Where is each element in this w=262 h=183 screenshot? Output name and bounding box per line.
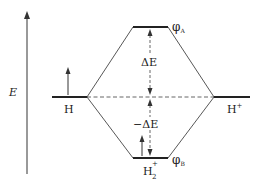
label-bonding: φB bbox=[172, 153, 185, 167]
electron-arrow-bonding-icon bbox=[140, 135, 145, 156]
label-antibonding: φA bbox=[172, 20, 185, 34]
energy-axis-label: E bbox=[8, 86, 17, 99]
electron-arrow-left-icon bbox=[66, 67, 71, 95]
energy-axis bbox=[24, 11, 30, 174]
label-molecule: H + 2 bbox=[143, 160, 158, 181]
mo-diagram: E ΔE −ΔE H H+ φA φB H bbox=[0, 0, 262, 183]
delta-e-lower-label: −ΔE bbox=[133, 118, 158, 131]
delta-e-upper-label: ΔE bbox=[141, 56, 157, 69]
label-left-atom: H bbox=[64, 103, 74, 116]
svg-text:2: 2 bbox=[152, 173, 156, 181]
svg-text:+: + bbox=[152, 160, 158, 168]
label-right-atom: H+ bbox=[227, 102, 243, 116]
energy-axis-arrow-icon bbox=[24, 11, 30, 19]
